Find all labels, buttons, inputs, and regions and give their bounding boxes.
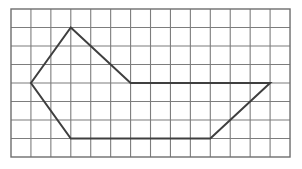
- figure-root: [0, 0, 302, 169]
- grid-polygon-figure: [0, 0, 302, 169]
